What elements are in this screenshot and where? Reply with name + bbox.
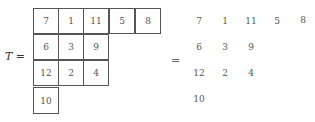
tableau-cell: 3 <box>58 34 84 60</box>
tableau-cell: 9 <box>83 34 109 60</box>
matrix-entry: 11 <box>238 8 264 34</box>
tableau-cell: 7 <box>33 8 59 34</box>
tableau-cell: 2 <box>58 60 84 86</box>
tableau-cell: 5 <box>109 8 135 34</box>
matrix-entry: 12 <box>186 60 212 86</box>
matrix-entry: 1 <box>212 8 238 34</box>
matrix-entry: 7 <box>186 8 212 34</box>
matrix-entry: 2 <box>212 60 238 86</box>
equals-sign: = <box>16 50 25 63</box>
tableau-cell: 10 <box>33 87 59 114</box>
tableau-cell: 1 <box>58 8 84 34</box>
tableau-cell: 6 <box>33 34 59 60</box>
matrix-entry: 6 <box>186 34 212 60</box>
tableau-cell: 8 <box>135 8 161 34</box>
equals-sign: = <box>171 54 180 67</box>
matrix-entry: 3 <box>212 34 238 60</box>
matrix-entry: 4 <box>238 60 264 86</box>
matrix-entry: 10 <box>186 86 212 112</box>
matrix-entry: 8 <box>290 7 315 33</box>
tableau-cell: 4 <box>83 60 109 86</box>
tableau-symbol: T <box>5 50 12 63</box>
tableau-cell: 11 <box>83 8 109 34</box>
matrix-entry: 9 <box>238 34 264 60</box>
tableau-label: T = <box>5 50 25 63</box>
tableau-cell: 12 <box>33 60 59 86</box>
matrix-entry: 5 <box>264 8 290 34</box>
